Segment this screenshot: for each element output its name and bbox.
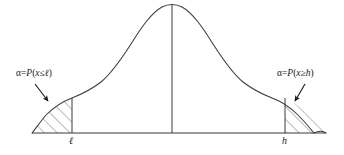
left-tail-probability-label: α=P(x≤ℓ)	[16, 69, 52, 79]
tick-label-lower-bound: ℓ	[69, 136, 73, 146]
left-tail-hatch-fill	[20, 85, 90, 145]
tick-label-upper-bound: h	[282, 136, 287, 146]
right-tail-hatch-fill	[278, 85, 338, 145]
normal-curve	[32, 5, 314, 134]
right-annotation-arrow	[295, 84, 305, 101]
right-close-paren: )	[311, 68, 314, 78]
left-close-paren: )	[49, 68, 52, 78]
right-tail-probability-label: α=P(x≥h)	[277, 69, 314, 79]
distribution-figure: α=P(x≤ℓ) α=P(x≥h) ℓ h	[0, 0, 344, 155]
left-annotation-arrow	[35, 84, 48, 101]
